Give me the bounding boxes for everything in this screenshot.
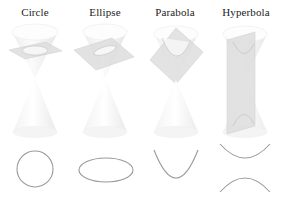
- cutting-plane-circle: [9, 42, 62, 59]
- cone-diagram-circle: [0, 20, 70, 138]
- conic-column-parabola: Parabola: [140, 0, 210, 199]
- conic-label-hyperbola: Hyperbola: [211, 5, 281, 19]
- conic-sections-figure: Circle: [0, 0, 281, 199]
- conic-curve-circle: [0, 140, 70, 198]
- lower-nappe-circle: [13, 78, 57, 138]
- hyperbola-lower-branch: [220, 178, 270, 192]
- cone-diagram-parabola: [140, 20, 210, 138]
- conic-curve-parabola: [140, 140, 210, 198]
- hyperbola-upper-branch: [220, 144, 270, 158]
- cone-diagram-hyperbola: [211, 20, 281, 138]
- conic-column-circle: Circle: [0, 0, 70, 199]
- conic-curve-ellipse: [70, 140, 140, 198]
- conic-label-ellipse: Ellipse: [70, 5, 140, 19]
- cutting-plane-ellipse: [74, 38, 134, 70]
- conic-column-hyperbola: Hyperbola: [211, 0, 281, 199]
- lower-nappe-ellipse: [83, 78, 127, 138]
- lower-nappe-parabola: [154, 80, 198, 138]
- conic-column-ellipse: Ellipse: [70, 0, 140, 199]
- conic-label-circle: Circle: [0, 5, 70, 19]
- cone-diagram-ellipse: [70, 20, 140, 138]
- conic-curve-hyperbola: [211, 140, 281, 198]
- cutting-plane-hyperbola: [227, 32, 255, 134]
- conic-label-parabola: Parabola: [140, 5, 210, 19]
